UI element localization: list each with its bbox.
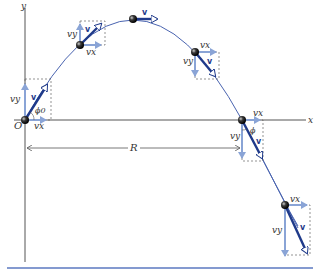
vx-label: vx <box>253 108 263 118</box>
return-point: vx ϕ vy v <box>230 108 263 161</box>
v-label: v <box>31 93 37 102</box>
vy-label: vy <box>67 29 78 39</box>
vx-label: vx <box>290 194 300 204</box>
projectile-diagram: y x O R ϕ0 vy vx v vy vx v v <box>0 0 319 273</box>
velocity-arrow <box>80 24 101 45</box>
vy-label: vy <box>272 225 283 235</box>
vy-label: vy <box>230 131 241 141</box>
vy-label: vy <box>183 56 194 66</box>
v-label: v <box>207 57 213 66</box>
range-label: R <box>129 142 138 153</box>
vx-label: vx <box>200 40 210 50</box>
range-dimension: R <box>27 142 240 153</box>
impact-angle-label: ϕ <box>250 126 256 135</box>
launch-angle-label: ϕ0 <box>35 106 46 115</box>
origin-label: O <box>14 120 22 131</box>
particle <box>238 116 246 124</box>
v-label: v <box>85 25 91 34</box>
particle <box>76 41 84 49</box>
axes: y x O <box>14 1 313 262</box>
v-label: v <box>256 137 262 146</box>
vy-label: vy <box>10 94 21 104</box>
vx-label: vx <box>86 47 96 57</box>
x-axis-label: x <box>308 115 313 125</box>
v-label: v <box>300 223 306 232</box>
below-point: vx vy v <box>272 194 310 256</box>
particle <box>281 201 289 209</box>
particle <box>129 15 137 23</box>
particle <box>191 48 199 56</box>
particle <box>21 116 29 124</box>
vx-label: vx <box>34 121 44 131</box>
trajectory-curve <box>25 20 298 226</box>
y-axis-label: y <box>20 1 27 11</box>
v-label: v <box>142 8 148 17</box>
